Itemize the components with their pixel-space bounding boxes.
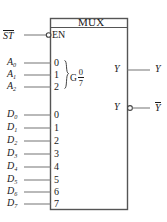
data-input-label-4: D4: [7, 161, 17, 171]
select-pin-number-0: 0: [54, 58, 59, 68]
data-pin-number-4: 4: [54, 162, 59, 172]
output-internal-label-0: Y: [114, 64, 120, 74]
diagram-stage: MUX ST EN A0 A1 A2 0 1 2 G 0 7 D0 D1 D2 …: [0, 0, 167, 222]
data-pin-number-1: 1: [54, 123, 59, 133]
data-input-label-7: D7: [7, 198, 17, 208]
select-input-label-1: A1: [7, 69, 16, 79]
qualifier-range-bottom: 7: [79, 78, 83, 87]
enable-inversion-bubble: [46, 33, 51, 38]
enable-external-label-text: ST: [3, 30, 14, 41]
data-input-label-1: D1: [7, 122, 17, 132]
data-pin-number-6: 6: [54, 187, 59, 197]
output-inversion-bubble: [128, 106, 133, 111]
data-input-label-0: D0: [7, 109, 17, 119]
data-input-label-5: D5: [7, 174, 17, 184]
select-group-qualifier: G 0 7: [70, 68, 84, 87]
select-pin-number-2: 2: [54, 82, 59, 92]
mux-logic-diagram: MUX ST EN A0 A1 A2 0 1 2 G 0 7 D0 D1 D2 …: [0, 0, 167, 222]
select-input-label-2: A2: [7, 81, 16, 91]
output-external-label-0: Y: [155, 64, 161, 74]
qualifier-range-top: 0: [79, 68, 83, 77]
enable-internal-label: EN: [52, 30, 65, 40]
data-pin-number-5: 5: [54, 175, 59, 185]
qualifier-range: 0 7: [78, 68, 84, 87]
data-input-label-3: D3: [7, 148, 17, 158]
output-external-label-1: Y: [155, 102, 161, 113]
select-input-label-0: A0: [7, 57, 16, 67]
data-pin-number-0: 0: [54, 110, 59, 120]
mux-body-outline: [51, 19, 128, 210]
select-pin-number-1: 1: [54, 70, 59, 80]
data-input-label-2: D2: [7, 135, 17, 145]
data-pin-number-2: 2: [54, 136, 59, 146]
mux-title: MUX: [78, 17, 105, 28]
enable-external-label: ST: [3, 30, 14, 41]
diagram-wires: [0, 0, 167, 222]
data-input-label-6: D6: [7, 186, 17, 196]
output-internal-label-1: Y: [114, 102, 120, 112]
data-pin-number-7: 7: [54, 199, 59, 209]
output-external-label-1-text: Y: [155, 102, 161, 113]
qualifier-letter: G: [70, 73, 77, 83]
data-pin-number-3: 3: [54, 149, 59, 159]
